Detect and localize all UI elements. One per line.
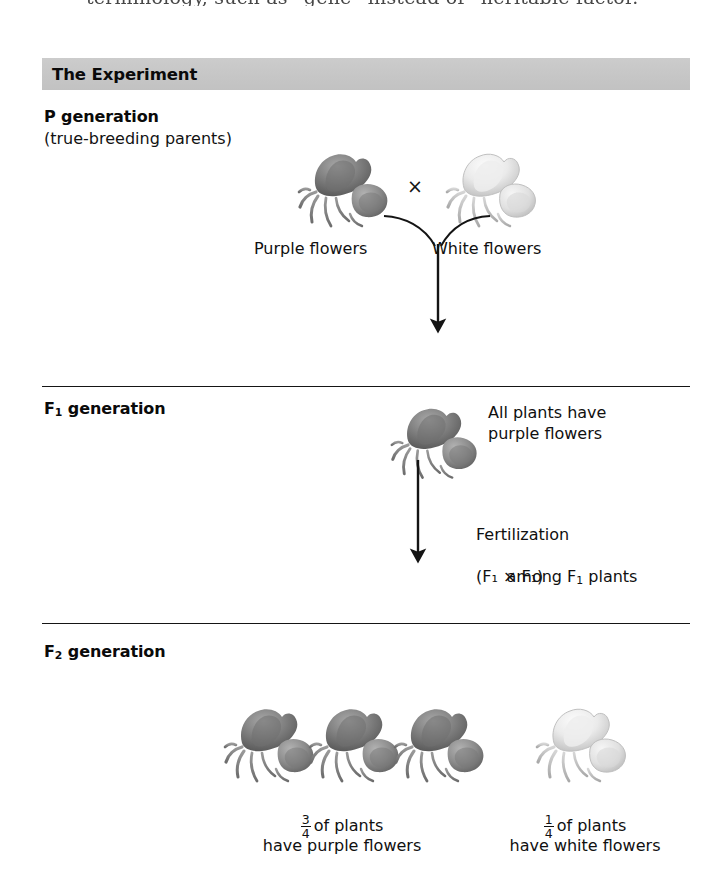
white-parent-caption: White flowers <box>432 238 541 259</box>
f1-offspring-flower <box>387 404 483 482</box>
cropped-body-text-line: terminology, such as “gene” instead of “… <box>86 0 646 6</box>
section-p-generation: P generation (true-breeding parents) <box>42 90 690 386</box>
mendel-experiment-figure: The Experiment P generation (true-breedi… <box>42 58 690 887</box>
fertilization-note-line1: Fertilization <box>476 524 569 545</box>
f2-label-prefix: F <box>44 642 55 661</box>
f2-purple-flower-3 <box>390 703 490 787</box>
f2-label-suffix: generation <box>62 642 165 661</box>
f2-purple-flower-artwork-3 <box>390 703 490 787</box>
f1-generation-label: F1 generation <box>44 399 166 419</box>
section-f2-generation: F2 generation <box>42 623 690 887</box>
fertilization-note-line3: (F₁ × F₁) <box>476 566 543 587</box>
f2-divider-rule <box>42 623 690 624</box>
f1-offspring-caption-line1: All plants have <box>488 402 606 423</box>
f2-purple-result-text1: of plants <box>314 816 384 835</box>
cross-symbol: × <box>407 177 423 196</box>
f2-purple-result-line2: have purple flowers <box>212 835 472 856</box>
f2-white-result-text1: of plants <box>557 816 627 835</box>
purple-flower-artwork <box>294 150 394 230</box>
p-generation-label: P generation <box>44 107 159 126</box>
f2-white-flower-1 <box>532 703 632 787</box>
cropped-body-text: terminology, such as “gene” instead of “… <box>86 0 646 6</box>
white-flower-artwork <box>442 150 542 230</box>
f2-white-result-line2: have white flowers <box>470 835 700 856</box>
f1-label-prefix: F <box>44 399 55 418</box>
f1-label-suffix: generation <box>62 399 165 418</box>
f2-white-flower-artwork-1 <box>532 703 632 787</box>
f1-divider-rule <box>42 386 690 387</box>
fertilization-note-line2-post: plants <box>583 567 637 586</box>
p-generation-sublabel: (true-breeding parents) <box>44 129 232 148</box>
f1-offspring-caption-line2: purple flowers <box>488 423 602 444</box>
figure-title: The Experiment <box>52 65 197 84</box>
f2-generation-label: F2 generation <box>44 642 166 662</box>
f1-purple-flower-artwork <box>387 404 483 482</box>
section-f1-generation: F1 generation All plants have purple flo… <box>42 386 690 623</box>
white-parent-flower <box>442 150 542 230</box>
purple-parent-caption: Purple flowers <box>254 238 367 259</box>
purple-parent-flower <box>294 150 394 230</box>
figure-header-band: The Experiment <box>42 58 690 90</box>
